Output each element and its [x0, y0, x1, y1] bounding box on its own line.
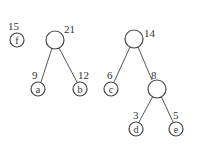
edge-21-a: [41, 48, 52, 82]
weight-f: 15: [8, 20, 20, 32]
huffman-forest-diagram: f 15 21 a 9 b 12 14 c 6 8 d 3 e 5: [0, 0, 198, 147]
weight-8: 8: [151, 69, 157, 81]
node-b: b 12: [73, 69, 89, 96]
node-f: f 15: [8, 20, 24, 47]
node-a: a 9: [31, 69, 45, 96]
weight-d: 3: [133, 109, 139, 121]
node-label-a: a: [36, 84, 41, 95]
edge-8-e: [161, 96, 173, 122]
weight-e: 5: [173, 109, 179, 121]
weight-b: 12: [78, 69, 89, 81]
edge-14-8: [138, 47, 152, 80]
edge-21-b: [59, 48, 77, 82]
edge-14-c: [114, 47, 130, 82]
node-c: c 6: [104, 69, 118, 96]
weight-a: 9: [32, 69, 38, 81]
node-21: 21: [46, 23, 75, 49]
node-e: e 5: [169, 109, 183, 136]
node-label-c: c: [109, 84, 114, 95]
node-label-e: e: [174, 124, 179, 135]
node-label-d: d: [134, 124, 139, 135]
node-label-b: b: [78, 84, 83, 95]
node-8: 8: [148, 69, 166, 98]
node-14: 14: [125, 27, 156, 48]
weight-c: 6: [107, 69, 113, 81]
node-d: d 3: [129, 109, 143, 136]
weight-21: 21: [64, 23, 75, 35]
weight-14: 14: [144, 27, 156, 39]
edge-8-d: [139, 96, 153, 122]
